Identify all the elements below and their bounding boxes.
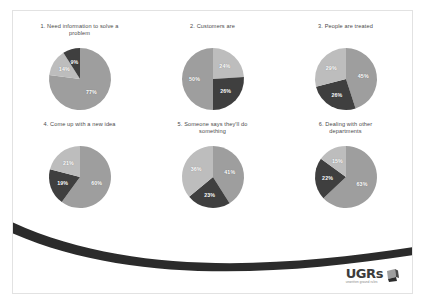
- pie-slice-label: 60%: [91, 180, 102, 186]
- pie-slice-label: 14%: [59, 66, 70, 72]
- pie-slice-label: 15%: [332, 158, 343, 164]
- ugrs-logo: UGRs unwritten ground rules: [346, 267, 400, 284]
- pie-chart-cell: 1. Need information to solve a problem77…: [13, 19, 146, 117]
- pie-slice-label: 77%: [86, 89, 97, 95]
- pie-slice-label: 50%: [189, 76, 200, 82]
- pie-chart-grid: 1. Need information to solve a problem77…: [13, 19, 412, 215]
- logo-tagline: unwritten ground rules: [346, 281, 378, 284]
- pie-slice-label: 45%: [358, 73, 369, 79]
- pie-chart: 24%26%50%: [182, 48, 244, 110]
- pie-slice-label: 26%: [220, 88, 231, 94]
- pie-chart-cell: 5. Someone says they'll do something41%2…: [146, 117, 279, 215]
- pie-slice-label: 41%: [224, 169, 235, 175]
- pie-chart: 63%22%15%: [315, 146, 377, 208]
- pie-chart: 77%14%9%: [49, 48, 111, 110]
- slide-canvas: 1. Need information to solve a problem77…: [12, 10, 413, 294]
- chart-title: 3. People are treated: [318, 23, 373, 45]
- pie-chart-cell: 3. People are treated45%26%29%: [279, 19, 412, 117]
- chart-title: 4. Come up with a new idea: [43, 121, 115, 143]
- pie-slice-label: 24%: [219, 63, 230, 69]
- pie-slice-label: 9%: [71, 59, 79, 65]
- pie-slice-label: 22%: [322, 175, 333, 181]
- pie-slice-label: 63%: [357, 181, 368, 187]
- pie-chart: 60%19%21%: [49, 146, 111, 208]
- pie-chart: 41%23%36%: [182, 146, 244, 208]
- chart-title: 2. Customers are: [190, 23, 235, 45]
- chart-title: 5. Someone says they'll do something: [171, 121, 255, 143]
- logo-text-block: UGRs unwritten ground rules: [346, 267, 383, 284]
- pie-chart: 45%26%29%: [315, 48, 377, 110]
- pie-chart-cell: 2. Customers are24%26%50%: [146, 19, 279, 117]
- pie-slice-label: 36%: [191, 166, 202, 172]
- pie-slice-label: 26%: [331, 92, 342, 98]
- logo-wordmark: UGRs: [346, 267, 383, 280]
- pie-slice-label: 19%: [57, 180, 68, 186]
- flag-swoosh-mark-icon: [385, 268, 400, 283]
- pie-chart-cell: 4. Come up with a new idea60%19%21%: [13, 117, 146, 215]
- pie-slice-label: 23%: [204, 192, 215, 198]
- pie-slice-label: 29%: [326, 65, 337, 71]
- pie-slice-label: 21%: [63, 160, 74, 166]
- chart-title: 1. Need information to solve a problem: [38, 23, 122, 45]
- chart-title: 6. Dealing with other departments: [304, 121, 388, 143]
- pie-chart-cell: 6. Dealing with other departments63%22%1…: [279, 117, 412, 215]
